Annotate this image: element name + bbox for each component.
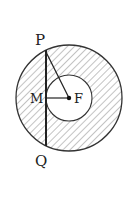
label-Q: Q — [35, 152, 47, 170]
label-M: M — [30, 91, 43, 106]
center-point-F — [67, 96, 71, 100]
label-F: F — [74, 91, 83, 106]
hatched-annulus — [0, 0, 134, 202]
label-P: P — [35, 31, 45, 49]
annulus-diagram: P Q M F — [0, 0, 134, 202]
